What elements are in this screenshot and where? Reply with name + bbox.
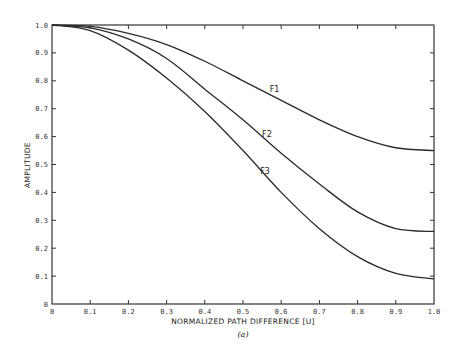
amplitude-chart: 00.10.20.30.40.50.60.70.80.91.0 00.10.20… [0,0,457,355]
y-tick-label: 0.6 [35,133,48,141]
x-tick-label: 0 [50,308,54,316]
y-tick-label: 0.7 [35,105,48,113]
y-tick-label: 0.1 [35,273,48,281]
y-tick-label: 0.2 [35,245,48,253]
curve-f2 [52,25,434,231]
curve-label-f1: F1 [270,85,280,94]
curve-f3 [52,25,434,279]
x-tick-label: 0.9 [389,308,402,316]
figure-caption: (a) [237,330,248,339]
x-tick-label: 0.4 [198,308,211,316]
x-tick-label: 0.2 [122,308,135,316]
y-tick-label: 0 [44,301,48,309]
y-tick-label: 0.4 [35,189,48,197]
y-tick-label: 0.8 [35,77,48,85]
x-tick-label: 0.8 [351,308,364,316]
x-axis-ticks: 00.10.20.30.40.50.60.70.80.91.0 [50,25,440,316]
y-axis-title: AMPLITUDE [23,142,32,188]
x-axis-title: NORMALIZED PATH DIFFERENCE [U] [171,317,315,326]
plot-frame [52,25,434,304]
x-tick-label: 1.0 [428,308,441,316]
curves [52,25,434,279]
y-tick-label: 0.3 [35,217,48,225]
plot-border [52,25,434,304]
curve-label-f3: F3 [260,167,270,176]
y-tick-label: 1.0 [35,22,48,30]
x-tick-label: 0.1 [84,308,97,316]
x-tick-label: 0.7 [313,308,326,316]
x-tick-label: 0.3 [160,308,173,316]
curve-label-f2: F2 [262,130,272,139]
y-tick-label: 0.9 [35,49,48,57]
y-tick-label: 0.5 [35,161,48,169]
x-tick-label: 0.6 [275,308,288,316]
x-tick-label: 0.5 [237,308,250,316]
curve-f1 [52,25,434,151]
